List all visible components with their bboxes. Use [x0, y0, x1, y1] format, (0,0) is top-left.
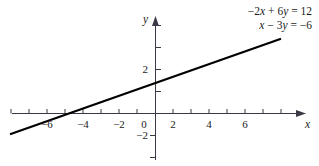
- y-axis-arrow-icon: [152, 16, 159, 26]
- x-axis-arrow-icon: [296, 110, 306, 117]
- y-tick-label-minus2: −2: [126, 129, 148, 141]
- x-axis: [11, 109, 306, 117]
- equation-first: −2x + 6y = 12: [176, 5, 312, 19]
- x-tick-label-2: 2: [163, 118, 183, 130]
- y-tick-label-2: 2: [132, 63, 148, 75]
- graph-figure: −2x + 6y = 12 x − 3y = −6 −6 −4 −2 2 4 6…: [0, 0, 319, 166]
- x-tick-label-4: 4: [199, 118, 219, 130]
- x-tick-label-minus4: −4: [73, 118, 93, 130]
- equation-annotations: −2x + 6y = 12 x − 3y = −6: [176, 5, 312, 32]
- equation-second: x − 3y = −6: [176, 19, 312, 33]
- y-axis: [150, 16, 161, 160]
- y-axis-name: y: [143, 13, 148, 25]
- x-axis-ticks: [11, 109, 281, 114]
- x-axis-name: x: [305, 118, 310, 130]
- x-tick-label-6: 6: [235, 118, 255, 130]
- x-tick-label-minus6: −6: [37, 118, 57, 130]
